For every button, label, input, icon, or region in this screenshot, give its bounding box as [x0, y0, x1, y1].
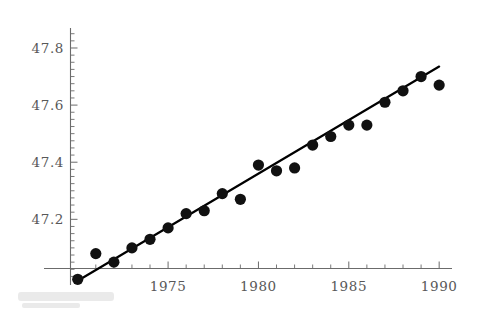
data-point-marker	[397, 85, 408, 96]
y-tick-label: 47.4	[32, 154, 64, 170]
data-point-marker	[289, 162, 300, 173]
scan-artifact	[18, 292, 114, 308]
data-point-marker	[217, 188, 228, 199]
y-tick-label: 47.6	[32, 97, 64, 113]
data-point-marker	[72, 274, 83, 285]
data-point-marker	[126, 242, 137, 253]
data-point-marker	[379, 97, 390, 108]
data-point-marker	[415, 71, 426, 82]
x-tick-label: 1990	[421, 278, 458, 294]
data-point-marker	[253, 159, 264, 170]
data-point-marker	[90, 248, 101, 259]
y-axis-tick-labels: 47.247.447.647.8	[32, 40, 64, 227]
y-axis-ticks	[71, 34, 78, 277]
data-point-marker	[271, 165, 282, 176]
scatter-plot-svg: 47.247.447.647.8 1975198019851990	[0, 0, 480, 309]
data-point-marker	[144, 234, 155, 245]
data-point-marker	[162, 222, 173, 233]
x-tick-label: 1985	[330, 278, 367, 294]
data-point-marker	[343, 119, 354, 130]
chart-figure: 47.247.447.647.8 1975198019851990	[0, 0, 480, 309]
data-point-marker	[307, 139, 318, 150]
x-tick-label: 1975	[150, 278, 187, 294]
data-point-marker	[108, 257, 119, 268]
data-point-marker	[235, 194, 246, 205]
data-points	[72, 71, 445, 285]
x-axis-ticks	[96, 262, 439, 269]
x-tick-label: 1980	[240, 278, 277, 294]
y-tick-label: 47.8	[32, 40, 64, 56]
data-point-marker	[181, 208, 192, 219]
data-point-marker	[325, 131, 336, 142]
y-tick-label: 47.2	[32, 211, 64, 227]
x-axis-tick-labels: 1975198019851990	[150, 278, 458, 294]
data-point-marker	[199, 205, 210, 216]
axes-group	[44, 28, 452, 285]
data-point-marker	[361, 119, 372, 130]
data-point-marker	[434, 80, 445, 91]
